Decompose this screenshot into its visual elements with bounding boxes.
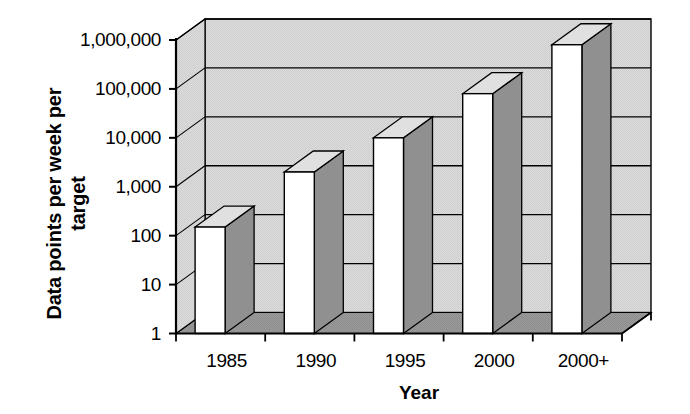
bar-2000+: [552, 24, 611, 334]
bar-1985: [195, 206, 254, 333]
bar-2000: [463, 73, 522, 334]
bar-1995: [374, 117, 433, 334]
bar-1990: [284, 151, 343, 333]
bar-chart: Data points per week per target 1101001,…: [0, 0, 690, 414]
plot-area: [0, 0, 690, 414]
